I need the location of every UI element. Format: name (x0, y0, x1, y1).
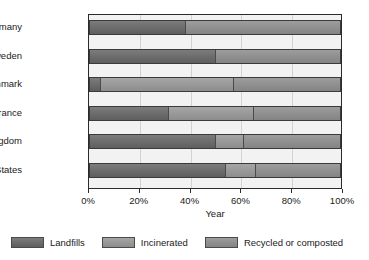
x-tick-label: 60% (217, 195, 263, 206)
category-label-germany: Germany (0, 22, 22, 32)
bar-segment-landfills (90, 164, 225, 177)
bar-segment-landfills (90, 21, 185, 34)
x-tick-mark (139, 189, 140, 193)
bar-row (89, 77, 341, 92)
x-tick-label: 100% (319, 195, 365, 206)
x-tick-mark (342, 189, 343, 193)
x-tick-mark (190, 189, 191, 193)
bar-row (89, 49, 341, 64)
x-axis-title: Year (88, 208, 342, 219)
legend-swatch-icon (205, 237, 238, 248)
legend-swatch-icon (102, 237, 135, 248)
bar-segment-incinerated (215, 135, 243, 148)
category-label-denmark: Denmark (0, 79, 22, 89)
category-label-united-kingdom: United Kingdom (0, 136, 22, 146)
legend-item-landfills: Landfills (11, 237, 102, 248)
category-label-united-states: United States (0, 165, 22, 175)
legend-item-incinerated: Incinerated (102, 237, 205, 248)
legend-swatch-icon (11, 237, 44, 248)
bar-segment-landfills (90, 135, 215, 148)
bar-segment-landfills (90, 50, 215, 63)
bar-row (89, 134, 341, 149)
bar-segment-incinerated (225, 164, 255, 177)
x-tick-label: 20% (116, 195, 162, 206)
chart-legend: LandfillsIncineratedRecycled or composte… (11, 234, 361, 250)
bar-row (89, 20, 341, 35)
x-tick-mark (240, 189, 241, 193)
legend-label: Landfills (50, 237, 85, 248)
bar-segment-recycled (253, 107, 341, 120)
bar-row (89, 163, 341, 178)
stacked-bar-chart: GermanySwedenDenmarkFranceUnited Kingdom… (0, 0, 369, 260)
bar-segment-incinerated (100, 78, 233, 91)
bar-segment-recycled (243, 135, 341, 148)
x-tick-mark (88, 189, 89, 193)
category-label-sweden: Sweden (0, 51, 22, 61)
x-tick-mark (291, 189, 292, 193)
x-tick-label: 0% (65, 195, 111, 206)
bar-segment-recycled (233, 78, 341, 91)
legend-label: Recycled or composted (244, 237, 343, 248)
bar-segment-recycled (185, 21, 340, 34)
bar-segment-landfills (90, 107, 168, 120)
bar-row (89, 106, 341, 121)
plot-area (88, 14, 342, 189)
bar-segment-recycled (255, 164, 340, 177)
legend-label: Incinerated (141, 237, 188, 248)
bar-segment-incinerated (168, 107, 253, 120)
x-tick-label: 80% (268, 195, 314, 206)
x-tick-label: 40% (167, 195, 213, 206)
legend-item-recycled: Recycled or composted (205, 237, 360, 248)
bar-segment-landfills (90, 78, 100, 91)
category-label-france: France (0, 108, 22, 118)
bar-segment-recycled (215, 50, 340, 63)
